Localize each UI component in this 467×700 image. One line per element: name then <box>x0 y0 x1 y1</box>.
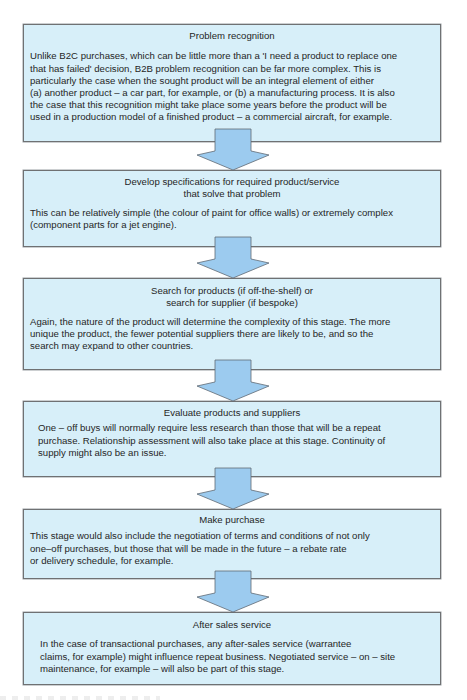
step-title: Problem recognition <box>30 30 434 42</box>
step-box-after-sales-service: After sales service In the case of trans… <box>23 612 441 685</box>
down-arrow-icon <box>196 237 270 279</box>
arrow-shape <box>197 360 269 401</box>
step-title: Make purchase <box>30 514 434 526</box>
down-arrow-icon <box>196 468 270 510</box>
step-box-evaluate: Evaluate products and suppliers One – of… <box>23 401 441 477</box>
step-description: Unlike B2C purchases, which can be littl… <box>30 50 434 123</box>
step-title: After sales service <box>30 619 434 631</box>
step-description: This stage would also include the negoti… <box>30 530 434 567</box>
step-title: Develop specifications for required prod… <box>30 176 434 201</box>
down-arrow-icon <box>196 360 270 402</box>
step-title: Search for products (if off-the-shelf) o… <box>30 285 434 310</box>
step-box-develop-specifications: Develop specifications for required prod… <box>23 170 441 247</box>
arrow-shape <box>197 237 269 278</box>
step-description: This can be relatively simple (the colou… <box>30 207 434 231</box>
arrow-shape <box>197 571 269 612</box>
down-arrow-icon <box>196 571 270 613</box>
step-description: In the case of transactional purchases, … <box>30 638 434 675</box>
down-arrow-icon <box>196 129 270 171</box>
step-description: One – off buys will normally require les… <box>30 422 434 459</box>
step-description: Again, the nature of the product will de… <box>30 316 434 353</box>
arrow-shape <box>197 468 269 509</box>
arrow-shape <box>197 129 269 170</box>
cropped-caption <box>0 696 160 700</box>
step-box-search: Search for products (if off-the-shelf) o… <box>23 278 441 370</box>
step-box-make-purchase: Make purchase This stage would also incl… <box>23 509 441 579</box>
step-title: Evaluate products and suppliers <box>30 407 434 419</box>
step-box-problem-recognition: Problem recognition Unlike B2C purchases… <box>23 24 441 142</box>
